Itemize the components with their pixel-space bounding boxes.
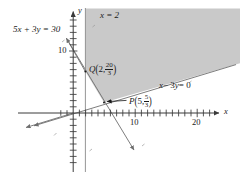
- point-Q-xvalue: 2,: [99, 64, 106, 74]
- point-Q-paren-close: ): [113, 63, 116, 76]
- x-tick-label-10: 10: [130, 118, 139, 127]
- math-figure-feasible-region: 5x + 3y = 30 x = 2 x− 3y= 0 Q(2,203) P(5…: [0, 0, 240, 180]
- eq3-tail: = 0: [179, 80, 191, 90]
- point-P-paren-open: (: [135, 95, 138, 108]
- point-label-P: P(5,53): [129, 94, 152, 109]
- line-5x-plus-3y-arrow-up: [66, 38, 85, 71]
- point-P-paren-close: ): [149, 95, 152, 108]
- point-P-xvalue: 5,: [138, 96, 145, 106]
- x-tick-label-20: 20: [192, 118, 201, 127]
- point-Q-marker: [84, 71, 86, 73]
- point-Q-yvalue-fraction: 203: [105, 62, 113, 77]
- eq3-operator: − 3: [163, 80, 175, 90]
- equation-label-x-equals-2: x = 2: [100, 11, 119, 20]
- point-Q-paren-open: (: [96, 63, 99, 76]
- point-P-marker: [103, 102, 105, 104]
- point-label-Q: Q(2,203): [89, 62, 116, 77]
- x-axis-label: x: [224, 107, 228, 116]
- line-x-minus-3y-arrow-left: [26, 113, 73, 128]
- y-axis-label: y: [78, 6, 82, 15]
- equation-label-5x-3y-30: 5x + 3y = 30: [13, 25, 60, 34]
- point-Q-denominator: 3: [105, 70, 113, 77]
- equation-label-x-minus-3y-equals-0: x− 3y= 0: [159, 81, 191, 90]
- y-tick-label-10: 10: [58, 46, 67, 55]
